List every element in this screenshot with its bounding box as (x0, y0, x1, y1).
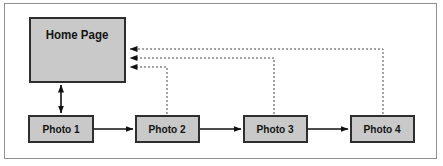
node-photo-3: Photo 3 (243, 115, 308, 143)
node-photo-2: Photo 2 (135, 115, 200, 143)
node-photo-2-label: Photo 2 (149, 123, 186, 135)
node-photo-1: Photo 1 (28, 115, 94, 143)
node-photo-3-label: Photo 3 (257, 123, 294, 135)
node-photo-4-label: Photo 4 (364, 123, 401, 135)
node-photo-4: Photo 4 (350, 115, 415, 143)
node-photo-1-label: Photo 1 (42, 123, 79, 135)
node-home-page-label: Home Page (46, 28, 109, 42)
node-home-page: Home Page (29, 17, 126, 83)
